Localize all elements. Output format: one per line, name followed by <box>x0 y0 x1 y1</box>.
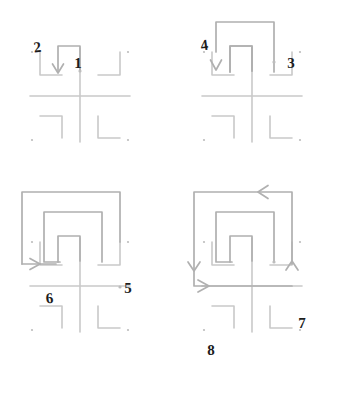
label-6: 6 <box>45 290 55 307</box>
label-8: 8 <box>207 342 215 358</box>
panel-2 <box>202 22 302 142</box>
panel-3 <box>22 192 130 332</box>
panel-4 <box>188 186 302 333</box>
label-2: 2 <box>33 39 42 56</box>
endpoint-dot-7 <box>272 260 275 263</box>
label-3: 3 <box>287 55 295 71</box>
panel-2-spiral-path <box>216 22 274 72</box>
endpoint-dot-3 <box>272 60 275 63</box>
figure-root: 2 1 4 3 <box>0 0 343 413</box>
spiral-construction-figure: 2 1 4 3 <box>0 0 343 413</box>
label-7: 7 <box>298 315 306 331</box>
panel-3-spiral-path <box>22 192 120 264</box>
label-1: 1 <box>74 55 82 71</box>
label-5: 5 <box>124 280 132 296</box>
panel-4-spiral-path <box>194 192 292 286</box>
endpoint-dot-5 <box>118 285 121 288</box>
label-4: 4 <box>199 37 209 54</box>
